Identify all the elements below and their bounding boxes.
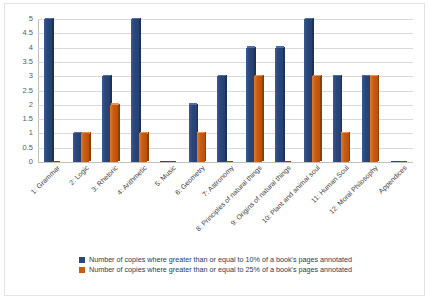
bar-group <box>153 19 182 162</box>
bar-front-face <box>73 133 81 162</box>
bar-side-face <box>52 18 54 161</box>
bar-front-face <box>312 76 320 162</box>
bar-front-face <box>81 133 89 162</box>
bar-front-face <box>52 161 60 163</box>
bar[interactable] <box>217 76 225 162</box>
bar-front-face <box>254 76 262 162</box>
bar-group <box>355 19 384 162</box>
legend-item-series-1[interactable]: Number of copies where greater than or e… <box>79 266 352 273</box>
y-axis-tick-label: 0.5 <box>23 144 38 152</box>
y-axis-tick-label: 2 <box>29 101 38 109</box>
bar[interactable] <box>399 161 407 163</box>
bar-front-face <box>283 161 291 163</box>
bar-front-face <box>197 133 205 162</box>
y-axis-tick-label: 5 <box>29 15 38 23</box>
bar[interactable] <box>44 19 52 162</box>
bar-group <box>182 19 211 162</box>
bar-group <box>67 19 96 162</box>
bar-side-face <box>147 132 149 161</box>
bar-side-face <box>118 104 120 161</box>
bar-front-face <box>168 161 176 163</box>
bar-group <box>384 19 413 162</box>
bar-front-face <box>102 76 110 162</box>
legend-swatch-icon <box>79 267 85 273</box>
bar-group <box>298 19 327 162</box>
bar-group <box>326 19 355 162</box>
bar-group <box>240 19 269 162</box>
bar-side-face <box>262 75 264 161</box>
bar[interactable] <box>225 161 233 163</box>
bar[interactable] <box>131 19 139 162</box>
legend-swatch-icon <box>79 257 85 263</box>
bar-side-face <box>378 75 380 161</box>
bar[interactable] <box>362 76 370 162</box>
bar[interactable] <box>102 76 110 162</box>
bar[interactable] <box>246 48 254 162</box>
bar[interactable] <box>275 48 283 162</box>
bar-front-face <box>131 19 139 162</box>
y-axis-tick-label: 3.5 <box>23 58 38 66</box>
bar[interactable] <box>283 161 291 163</box>
bar[interactable] <box>197 133 205 162</box>
bar[interactable] <box>312 76 320 162</box>
bar-group <box>38 19 67 162</box>
y-axis-tick-label: 1.5 <box>23 115 38 123</box>
bar-side-face <box>283 47 285 161</box>
legend-label: Number of copies where greater than or e… <box>89 256 352 263</box>
bar[interactable] <box>168 161 176 163</box>
bar[interactable] <box>189 105 197 162</box>
x-axis-labels: 1: Grammar2: Logic3: Rhetoric4: Arithmet… <box>38 164 413 254</box>
bar-front-face <box>399 161 407 163</box>
legend-label: Number of copies where greater than or e… <box>89 266 352 273</box>
bar-side-face <box>225 75 227 161</box>
bar[interactable] <box>160 161 168 163</box>
bar-front-face <box>246 48 254 162</box>
bar-front-face <box>341 133 349 162</box>
bar-front-face <box>391 161 399 163</box>
y-axis-tick-label: 1 <box>29 130 38 138</box>
bar-group <box>96 19 125 162</box>
y-axis-tick-label: 4 <box>29 44 38 52</box>
bar-front-face <box>217 76 225 162</box>
bar-group <box>125 19 154 162</box>
bar[interactable] <box>110 105 118 162</box>
bar[interactable] <box>139 133 147 162</box>
bar-front-face <box>333 76 341 162</box>
bar-side-face <box>205 132 207 161</box>
bar-front-face <box>160 161 168 163</box>
chart-legend: Number of copies where greater than or e… <box>5 256 426 273</box>
bar-front-face <box>139 133 147 162</box>
bar-group <box>211 19 240 162</box>
bar-side-face <box>349 132 351 161</box>
bar[interactable] <box>254 76 262 162</box>
chart-container: 00.511.522.533.544.55 1: Grammar2: Logic… <box>4 3 425 296</box>
legend-item-series-0[interactable]: Number of copies where greater than or e… <box>79 256 352 263</box>
bar-front-face <box>110 105 118 162</box>
y-axis-tick-label: 4.5 <box>23 30 38 38</box>
y-axis-tick-label: 3 <box>29 72 38 80</box>
bar[interactable] <box>52 161 60 163</box>
bar-front-face <box>225 161 233 163</box>
bar[interactable] <box>333 76 341 162</box>
bar-side-face <box>320 75 322 161</box>
bar-front-face <box>44 19 52 162</box>
y-axis-tick-label: 0 <box>29 158 38 166</box>
bar-front-face <box>189 105 197 162</box>
gridline <box>38 162 413 163</box>
bar-front-face <box>370 76 378 162</box>
bar[interactable] <box>81 133 89 162</box>
bar-front-face <box>362 76 370 162</box>
bar-front-face <box>275 48 283 162</box>
y-axis-tick-label: 2.5 <box>23 87 38 95</box>
bar-front-face <box>304 19 312 162</box>
bar-side-face <box>89 132 91 161</box>
bar[interactable] <box>391 161 399 163</box>
bar[interactable] <box>304 19 312 162</box>
bar[interactable] <box>341 133 349 162</box>
plot-area: 00.511.522.533.544.55 <box>38 19 413 162</box>
bar-group <box>269 19 298 162</box>
bar[interactable] <box>73 133 81 162</box>
bar[interactable] <box>370 76 378 162</box>
